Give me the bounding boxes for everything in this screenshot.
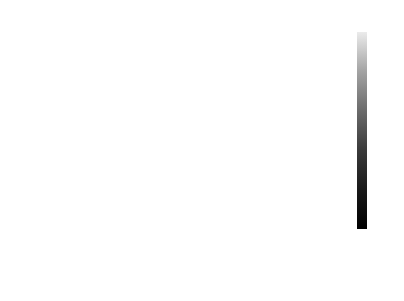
heatmap-grid: [79, 32, 320, 229]
colorbar: [357, 32, 367, 229]
